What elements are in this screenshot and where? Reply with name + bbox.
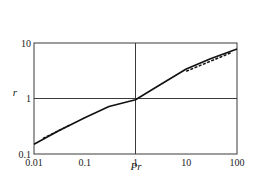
y-tick-label: 1: [26, 93, 31, 104]
x-tick-label: 100: [230, 157, 245, 168]
y-axis-label: r: [13, 86, 18, 98]
dashed-curve-2: [186, 52, 232, 71]
x-tick-label: 10: [181, 157, 191, 168]
x-axis-label: Pr: [130, 160, 143, 172]
y-axis-ticks: 0.1110: [19, 38, 32, 160]
x-tick-label: 0.1: [79, 157, 92, 168]
chart-canvas: 0.010.1110100 0.1110 Pr r: [0, 0, 253, 187]
y-tick-label: 10: [21, 38, 31, 49]
chart: 0.010.1110100 0.1110 Pr r: [0, 0, 253, 187]
y-tick-label: 0.1: [19, 149, 32, 160]
